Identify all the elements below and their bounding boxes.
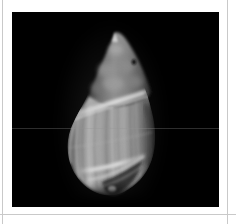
frame-rule-right [227, 0, 228, 224]
frame-rule-bottom [0, 214, 236, 215]
image-frame [0, 0, 236, 224]
frame-rule-left [2, 0, 3, 224]
shell-illustration [12, 12, 219, 207]
base-shadow [82, 187, 142, 205]
spire-dark-speck [132, 59, 136, 65]
photo-plate [12, 12, 219, 207]
shell-figure [12, 12, 219, 207]
